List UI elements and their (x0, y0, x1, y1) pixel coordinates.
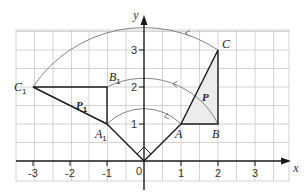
vertex-label-b: B (212, 127, 220, 141)
vertex-label-b1: B1 (109, 70, 121, 86)
axes (16, 15, 291, 190)
y-tick-label: 3 (131, 44, 137, 56)
x-axis-arrow-icon (281, 158, 291, 165)
y-axis-label: y (132, 8, 139, 22)
origin-label: 0 (136, 165, 142, 177)
arc-c-to-c1 (33, 28, 218, 87)
arrow-icon (165, 113, 170, 119)
x-tick-label: 1 (178, 167, 184, 179)
vertex-label-c1: C1 (14, 80, 27, 96)
x-tick-label: -1 (102, 167, 112, 179)
x-tick-label: -2 (65, 167, 75, 179)
vertex-label-a1: A1 (94, 127, 107, 143)
tick-labels: -3 -2 -1 0 1 2 3 1 2 3 x y (28, 8, 299, 179)
y-tick-label: 2 (131, 81, 137, 93)
x-tick-label: 3 (252, 167, 258, 179)
x-tick-label: -3 (28, 167, 38, 179)
y-axis-arrow-icon (141, 15, 148, 25)
vertex-label-c: C (222, 37, 231, 51)
y-tick-label: 1 (131, 118, 137, 130)
grid (16, 30, 289, 181)
x-tick-label: 2 (215, 167, 221, 179)
x-axis-label: x (292, 161, 299, 175)
rotation-diagram: -3 -2 -1 0 1 2 3 1 2 3 x y C B A C1 B1 A… (0, 0, 306, 192)
shape-label-p: P (202, 91, 209, 103)
vertex-label-a: A (174, 127, 183, 141)
shape-label-p1: P1 (76, 99, 88, 114)
